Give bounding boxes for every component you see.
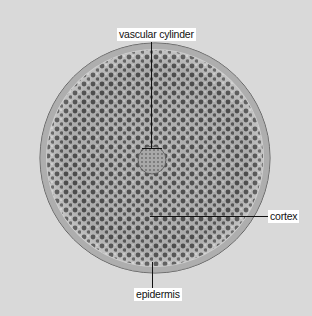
label-vascular-cylinder: vascular cylinder [117, 28, 196, 41]
leader-line-epidermis [152, 262, 153, 288]
root-cross-section-diagram: vascular cylinder cortex epidermis [0, 0, 312, 316]
leader-line-vascular-cylinder-tick [142, 148, 162, 149]
label-cortex: cortex [268, 210, 299, 223]
label-epidermis: epidermis [134, 288, 182, 301]
leader-line-cortex [150, 216, 268, 217]
vascular-cylinder-region [138, 146, 166, 174]
leader-line-vascular-cylinder [151, 42, 152, 148]
root-cross-section-image [0, 0, 312, 316]
